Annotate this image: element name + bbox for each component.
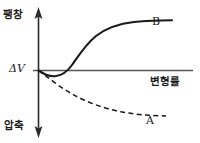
- origin-label-delta-v: ΔV: [9, 63, 25, 74]
- axis-label-expansion: 팽창: [3, 9, 23, 20]
- strain-volume-change-figure: 팽창 압축 변형률 ΔV B A: [0, 0, 200, 143]
- curve-b-path: [39, 20, 173, 76]
- plot-canvas: [0, 0, 200, 143]
- curve-label-b: B: [152, 16, 160, 27]
- axis-label-strain: 변형률: [150, 76, 181, 87]
- curve-label-a: A: [146, 115, 154, 126]
- axis-label-compression: 압축: [4, 120, 24, 131]
- curve-a-path: [39, 71, 167, 116]
